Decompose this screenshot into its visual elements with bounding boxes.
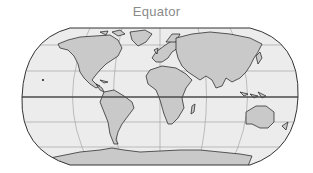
hawaii-dot [42, 79, 44, 81]
world-map [0, 0, 313, 173]
